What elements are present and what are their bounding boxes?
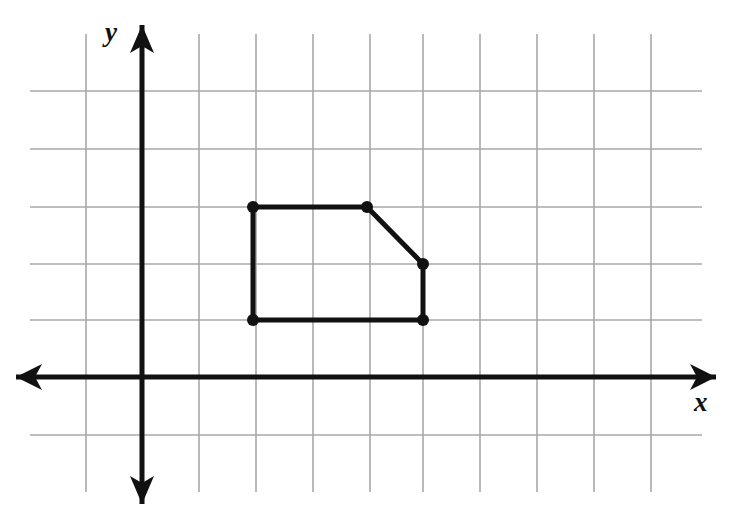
figure-canvas: y x — [0, 0, 732, 506]
x-axis-label: x — [694, 389, 708, 416]
vertex-point-0 — [247, 201, 259, 213]
y-axis-label: y — [105, 19, 117, 46]
coordinate-plane-svg — [0, 0, 732, 506]
vertex-point-3 — [417, 314, 429, 326]
grid-lines-group — [30, 34, 702, 492]
vertex-point-4 — [247, 314, 259, 326]
vertex-point-2 — [417, 258, 429, 270]
vertex-point-1 — [361, 201, 373, 213]
